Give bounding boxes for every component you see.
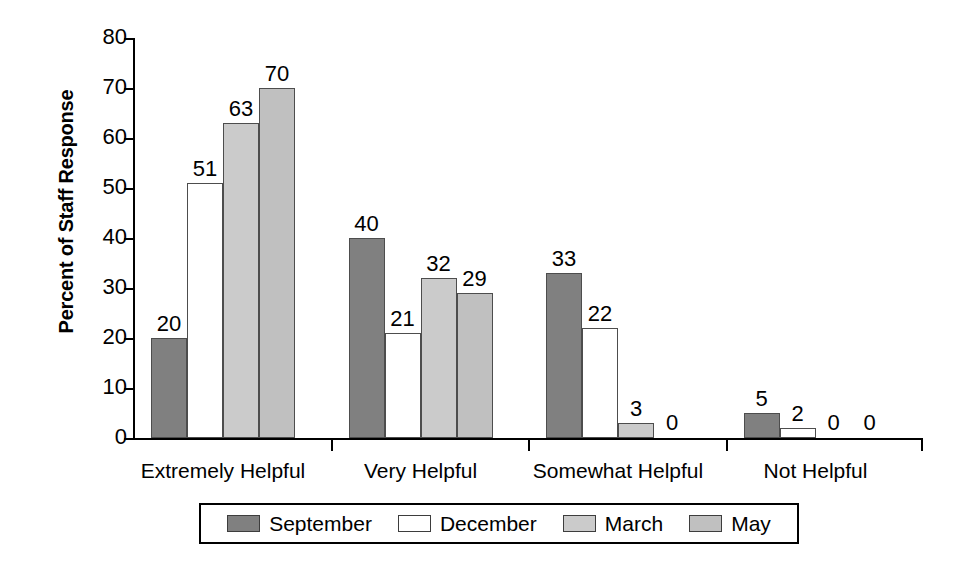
bar-value-label: 40 — [354, 212, 378, 236]
x-axis-end-tick — [921, 440, 923, 451]
bar-value-label: 29 — [462, 267, 486, 291]
bar: 33 — [546, 273, 582, 438]
bar-value-label: 70 — [265, 62, 289, 86]
bar: 70 — [259, 88, 295, 438]
bar-value-label: 0 — [827, 411, 839, 435]
y-axis-title: Percent of Staff Response — [55, 62, 78, 362]
x-axis-separator-tick — [726, 440, 728, 451]
legend-label: December — [440, 512, 537, 536]
bar: 51 — [187, 183, 223, 438]
legend-label: May — [731, 512, 771, 536]
bar-chart: Percent of Staff Response 01020304050607… — [0, 0, 968, 588]
bar: 63 — [223, 123, 259, 438]
bar-value-label: 33 — [552, 247, 576, 271]
x-axis-category-label: Not Helpful — [686, 458, 946, 484]
bar-value-label: 32 — [426, 252, 450, 276]
bar-value-label: 20 — [157, 312, 181, 336]
bar-value-label: 3 — [630, 397, 642, 421]
bar: 3 — [618, 423, 654, 438]
bar-value-label: 0 — [666, 411, 678, 435]
y-axis-tick-label: 20 — [79, 325, 127, 349]
y-axis-tick-label: 10 — [79, 375, 127, 399]
y-axis-tick-label: 50 — [79, 175, 127, 199]
legend-swatch-icon — [227, 515, 260, 532]
y-axis-tick-label: 30 — [79, 275, 127, 299]
plot-area: 01020304050607080 2051637040213229332230… — [133, 38, 923, 438]
bar: 21 — [385, 333, 421, 438]
bar-value-label: 0 — [863, 411, 875, 435]
bar-value-label: 2 — [791, 402, 803, 426]
legend-item[interactable]: December — [398, 512, 537, 536]
legend-item[interactable]: March — [563, 512, 663, 536]
y-axis-tick-label: 0 — [79, 425, 127, 449]
y-axis-tick-label: 70 — [79, 75, 127, 99]
legend-item[interactable]: May — [689, 512, 771, 536]
legend-label: March — [605, 512, 663, 536]
y-axis-tick-label: 60 — [79, 125, 127, 149]
bar: 22 — [582, 328, 618, 438]
bar-value-label: 63 — [229, 97, 253, 121]
y-axis-tick-label: 80 — [79, 25, 127, 49]
x-axis-separator-tick — [528, 440, 530, 451]
legend-swatch-icon — [689, 515, 722, 532]
legend-label: September — [269, 512, 372, 536]
bar-value-label: 51 — [193, 157, 217, 181]
bar: 20 — [151, 338, 187, 438]
legend-item[interactable]: September — [227, 512, 372, 536]
chart-legend: SeptemberDecemberMarchMay — [199, 503, 799, 544]
legend-swatch-icon — [563, 515, 596, 532]
bar: 32 — [421, 278, 457, 438]
bar-value-label: 22 — [588, 302, 612, 326]
y-axis-tick-label: 40 — [79, 225, 127, 249]
bar-value-label: 21 — [390, 307, 414, 331]
bar: 2 — [780, 428, 816, 438]
y-axis-line — [133, 38, 135, 438]
bar: 5 — [744, 413, 780, 438]
bar-value-label: 5 — [755, 387, 767, 411]
legend-swatch-icon — [398, 515, 431, 532]
x-axis-separator-tick — [331, 440, 333, 451]
bar: 40 — [349, 238, 385, 438]
bar: 29 — [457, 293, 493, 438]
